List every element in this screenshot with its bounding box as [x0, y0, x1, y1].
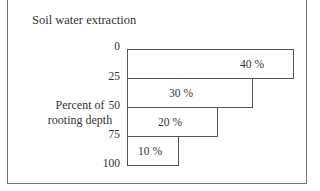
bar-25-50: 30 %: [127, 78, 253, 108]
y-tick-50: 50: [90, 99, 120, 111]
y-tick-100: 100: [90, 157, 120, 169]
chart-title: Soil water extraction: [32, 13, 136, 28]
y-tick-25: 25: [90, 70, 120, 82]
bar-0-25: 40 %: [127, 49, 294, 79]
bar-label: 40 %: [240, 58, 264, 70]
y-tick-0: 0: [90, 40, 120, 52]
bar-label: 20 %: [158, 116, 182, 128]
bar-50-75: 20 %: [127, 107, 218, 137]
bar-label: 10 %: [138, 145, 162, 157]
y-axis-label-line2: rooting depth: [40, 113, 120, 128]
bar-label: 30 %: [169, 87, 193, 99]
bar-75-100: 10 %: [127, 136, 179, 166]
y-tick-75: 75: [90, 128, 120, 140]
